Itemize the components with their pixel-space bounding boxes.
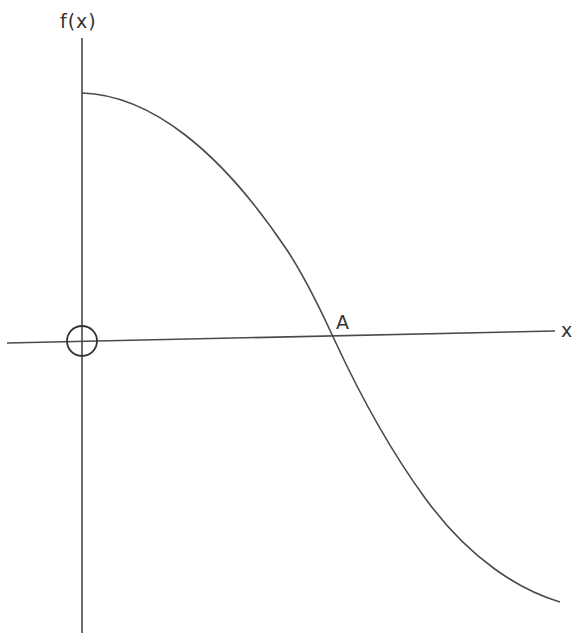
function-graph (0, 0, 572, 641)
x-axis (7, 331, 555, 343)
x-axis-label: x (561, 319, 572, 341)
function-curve (82, 93, 560, 602)
point-a-label: A (336, 311, 349, 333)
y-axis-label: f(x) (60, 10, 97, 32)
